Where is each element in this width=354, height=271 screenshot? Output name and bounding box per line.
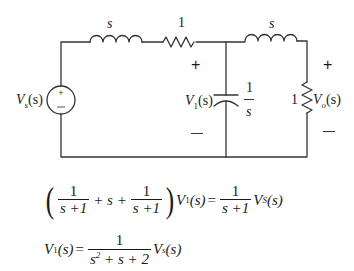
equals: = (76, 241, 84, 258)
v1-plus-sign: + (191, 57, 200, 73)
arg: (s) (267, 192, 283, 209)
plus-s-plus: + s + (93, 192, 127, 209)
source-plus-icon: + (58, 88, 63, 98)
source-voltage-label: Vs(s) (16, 93, 43, 110)
v1-minus-sign (191, 133, 203, 134)
resistor-1-label: 1 (178, 16, 185, 30)
right-paren: ) (166, 182, 174, 218)
fraction: 1s2 + s + 2 (88, 232, 151, 268)
wire-left-top (61, 42, 90, 86)
var: V (44, 241, 53, 258)
fraction: 1s +1 (220, 183, 251, 218)
vo-voltage-label: Vo(s) (313, 93, 341, 110)
vo-plus-sign: + (323, 57, 332, 73)
var: V (153, 241, 162, 258)
var: V (176, 192, 185, 209)
capacitor-impedance-num: 1 (246, 81, 253, 95)
resistor-2-label: 1 (291, 93, 298, 107)
var: V (253, 192, 262, 209)
equation-2: V1(s) = 1s2 + s + 2 Vs(s) (44, 232, 181, 268)
inductor-1 (90, 36, 142, 42)
arg: (s) (190, 192, 206, 209)
vo-minus-sign (323, 131, 335, 132)
capacitor-impedance-den: s (246, 105, 251, 119)
resistor-2 (302, 82, 312, 113)
wire-right-bottom (61, 113, 307, 157)
resistor-1 (163, 37, 194, 47)
arg: (s) (58, 241, 74, 258)
wire-l2-right (297, 41, 307, 82)
v1-voltage-label: V1(s) (185, 94, 213, 111)
left-paren: ( (46, 182, 54, 218)
inductor-2-label: s (269, 17, 274, 31)
fraction: 1s +1 (131, 183, 162, 218)
circuit-schematic: + (0, 0, 354, 180)
capacitor-impedance-bar (244, 99, 254, 100)
equals: = (208, 192, 216, 209)
inductor-1-label: s (107, 17, 112, 31)
inductor-2 (245, 35, 297, 42)
equation-1: ( 1s +1 + s + 1s +1 ) V1(s) = 1s +1 VS(s… (44, 182, 283, 218)
arg: (s) (166, 241, 182, 258)
fraction: 1s +1 (58, 183, 89, 218)
